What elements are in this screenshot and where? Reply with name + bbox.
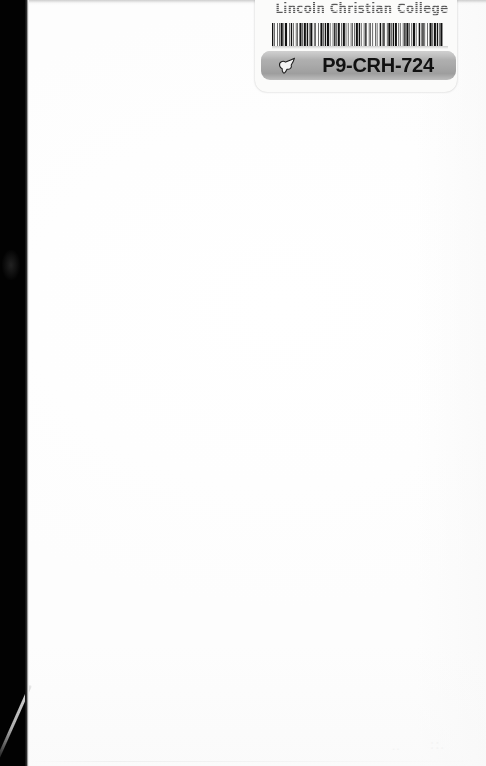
- scanned-page: Lincoln Christian College P9-CRH-724 .. …: [0, 0, 486, 766]
- institution-name: Lincoln Christian College: [275, 0, 450, 16]
- library-barcode-label: Lincoln Christian College P9-CRH-724: [255, 0, 457, 92]
- gutter-smudge-artifact: [2, 250, 20, 280]
- scan-gutter-edge: [25, 0, 29, 766]
- code-band: P9-CRH-724: [261, 51, 456, 80]
- page-surface: [0, 0, 486, 766]
- scan-gutter: [0, 0, 27, 766]
- label-inner: Lincoln Christian College P9-CRH-724: [255, 0, 457, 92]
- label-code-text: P9-CRH-724: [307, 54, 449, 77]
- barcode-image: [272, 23, 444, 46]
- pointing-hand-icon: [277, 56, 297, 75]
- barcode-baseline-shadow: [272, 46, 448, 49]
